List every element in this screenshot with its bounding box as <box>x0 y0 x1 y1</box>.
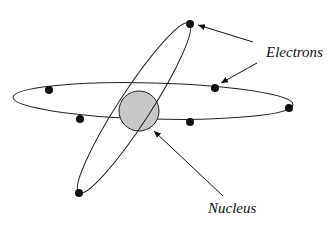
nucleus <box>119 91 159 131</box>
electron <box>76 115 84 123</box>
electron <box>186 118 194 126</box>
electron <box>75 189 83 197</box>
electron <box>186 20 194 28</box>
electrons-label: Electrons <box>266 44 323 61</box>
electron-arrow-mid <box>221 63 257 83</box>
electron <box>45 86 53 94</box>
electron <box>211 84 219 92</box>
electron <box>285 104 293 112</box>
nucleus-arrow <box>154 131 223 196</box>
diagram-svg <box>0 0 331 228</box>
nucleus-label: Nucleus <box>208 200 256 217</box>
atom-diagram: Electrons Nucleus <box>0 0 331 228</box>
electron-arrow-top <box>198 25 253 42</box>
